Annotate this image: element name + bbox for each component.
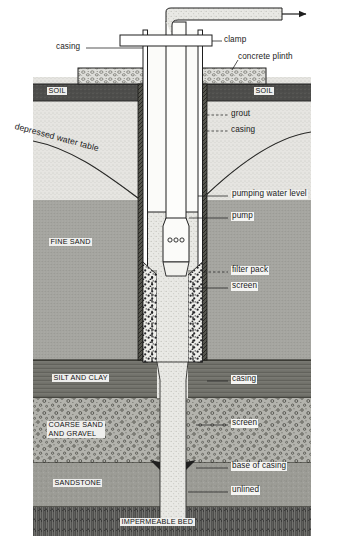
label-pump: pump — [231, 212, 254, 221]
strat-label-silt-and-clay: SILT AND CLAY — [52, 374, 109, 382]
filter-pack-right — [188, 262, 203, 362]
concrete-plinth-left — [78, 68, 146, 84]
pump-intake — [163, 262, 189, 276]
strat-label-soil-right: SOIL — [254, 87, 274, 95]
strat-label-fine-sand: FINE SAND — [49, 238, 92, 246]
pump-body — [163, 218, 189, 262]
label-screen-upper: screen — [231, 282, 258, 291]
label-unlined: unlined — [231, 486, 260, 495]
label-base-of-casing: base of casing — [231, 462, 287, 471]
strat-label-impermeable-bed: IMPERMEABLE BED — [120, 518, 195, 526]
label-pumping-water-level: pumping water level — [231, 190, 308, 199]
strat-label-soil-left: SOIL — [47, 87, 67, 95]
filter-pack-left — [143, 262, 157, 362]
pump-assembly — [163, 22, 189, 276]
unlined-hole — [157, 362, 188, 519]
wellhead-group — [120, 8, 306, 46]
label-screen-lower: screen — [231, 419, 258, 428]
label-clamp: clamp — [224, 36, 246, 45]
clamp-plate — [120, 35, 212, 46]
label-concrete-plinth: concrete plinth — [238, 53, 293, 62]
label-casing-lower: casing — [231, 375, 257, 384]
cross-section-canvas — [0, 0, 345, 559]
concrete-plinth-right — [198, 68, 266, 84]
label-casing-top: casing — [56, 43, 80, 52]
strat-label-sandstone: SANDSTONE — [53, 479, 102, 487]
label-casing-upper: casing — [231, 126, 255, 135]
coarse-sand-line-2: AND GRAVEL — [49, 429, 97, 438]
well-diagram-figure: casing clamp concrete plinth grout casin… — [0, 0, 345, 559]
strat-label-coarse-sand-and-gravel: COARSE SAND AND GRAVEL — [47, 421, 105, 438]
label-filter-pack: filter pack — [231, 266, 269, 275]
coarse-sand-line-1: COARSE SAND — [49, 420, 104, 429]
riser-pipe — [166, 22, 186, 222]
label-grout: grout — [231, 110, 250, 119]
